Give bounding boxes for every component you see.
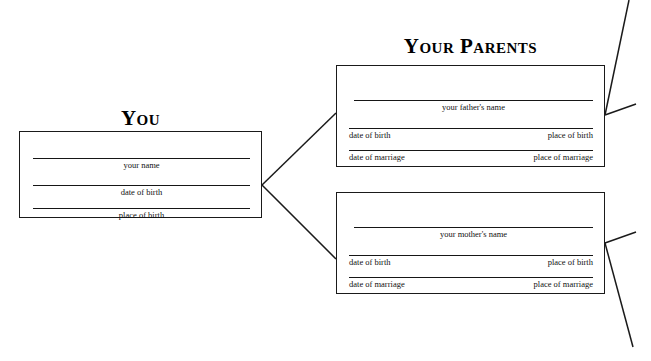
rule-date-of-birth[interactable] xyxy=(33,185,250,186)
field-label-mothers-name: your mother's name xyxy=(354,229,593,239)
rule-father-marriage[interactable] xyxy=(349,150,593,151)
rule-father-birth[interactable] xyxy=(349,128,593,129)
field-label-fathers-name: your father's name xyxy=(354,102,593,112)
field-label-date-of-birth: date of birth xyxy=(33,187,250,197)
field-label-father-place-of-marriage: place of marriage xyxy=(473,152,593,162)
field-label-place-of-birth: place of birth xyxy=(33,210,250,220)
rule-mother-birth[interactable] xyxy=(349,255,593,256)
field-label-mother-place-of-birth: place of birth xyxy=(473,257,593,267)
rule-mother-marriage[interactable] xyxy=(349,277,593,278)
connector-father-to-grandfather xyxy=(605,0,629,115)
field-label-father-place-of-birth: place of birth xyxy=(473,130,593,140)
rule-fathers-name[interactable] xyxy=(354,100,593,101)
page-title-your-parents: Your Parents xyxy=(336,35,605,57)
field-label-mother-place-of-marriage: place of marriage xyxy=(473,279,593,289)
connector-you-to-father xyxy=(262,113,336,185)
field-label-mother-date-of-birth: date of birth xyxy=(349,257,469,267)
rule-your-name[interactable] xyxy=(33,158,250,159)
connector-mother-to-grandfather xyxy=(605,232,636,243)
field-label-father-date-of-birth: date of birth xyxy=(349,130,469,140)
record-box-you[interactable]: your name date of birth place of birth xyxy=(19,131,262,218)
family-tree-worksheet: You your name date of birth place of bir… xyxy=(0,0,651,361)
rule-mothers-name[interactable] xyxy=(354,227,593,228)
field-label-father-date-of-marriage: date of marriage xyxy=(349,152,469,162)
page-title-you: You xyxy=(19,107,262,129)
field-label-your-name: your name xyxy=(33,160,250,170)
record-box-mother[interactable]: your mother's name date of birth place o… xyxy=(336,192,605,294)
rule-place-of-birth[interactable] xyxy=(33,208,250,209)
field-label-mother-date-of-marriage: date of marriage xyxy=(349,279,469,289)
connector-you-to-mother xyxy=(262,185,336,259)
connector-father-to-grandmother xyxy=(605,104,636,115)
connector-mother-to-grandmother xyxy=(605,243,633,347)
record-box-father[interactable]: your father's name date of birth place o… xyxy=(336,65,605,167)
